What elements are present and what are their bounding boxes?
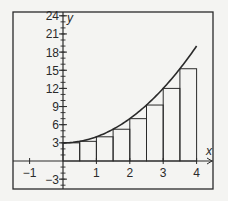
riemann-rectangle xyxy=(180,69,197,161)
y-tick-label: 9 xyxy=(52,100,59,114)
x-tick-label: 1 xyxy=(93,166,100,180)
riemann-rectangles xyxy=(63,69,197,161)
riemann-rectangle xyxy=(130,119,147,161)
x-tick-label: 4 xyxy=(193,166,200,180)
y-tick-label: 18 xyxy=(46,46,60,60)
y-axis-label: y xyxy=(66,11,74,25)
y-tick-label: 24 xyxy=(46,9,60,23)
y-tick-label: 3 xyxy=(52,136,59,150)
x-axis-label: x xyxy=(205,144,213,158)
riemann-rectangle xyxy=(163,88,180,161)
y-tick-label: 6 xyxy=(52,118,59,132)
y-tick-label: 12 xyxy=(46,82,60,96)
riemann-rectangle xyxy=(113,129,130,161)
riemann-rectangle xyxy=(96,137,113,161)
x-tick-label: −1 xyxy=(23,166,37,180)
riemann-sum-chart: −33691215182124−11234 x y xyxy=(0,0,228,201)
plot-frame xyxy=(13,12,213,189)
x-tick-label: 3 xyxy=(160,166,167,180)
riemann-rectangle xyxy=(147,105,164,161)
axes xyxy=(13,12,213,189)
riemann-rectangle xyxy=(63,143,80,161)
y-tick-label: −3 xyxy=(45,173,59,187)
x-tick-label: 2 xyxy=(126,166,133,180)
y-tick-label: 15 xyxy=(46,64,60,78)
y-tick-label: 21 xyxy=(46,27,60,41)
tick-labels: −33691215182124−11234 xyxy=(23,9,201,186)
riemann-rectangle xyxy=(80,141,97,161)
